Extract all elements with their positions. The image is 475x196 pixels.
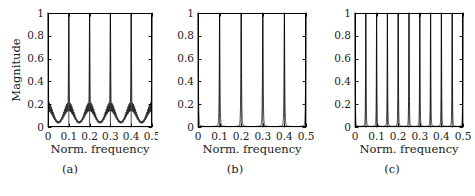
y-tick-label: 0 xyxy=(187,121,194,133)
x-tick-label: 0.2 xyxy=(390,130,407,142)
x-tick-label: 0.1 xyxy=(211,130,228,142)
plot-area-c: 00.10.20.30.40.500.20.40.60.81Norm. freq… xyxy=(317,0,475,160)
x-tick-label: 0.2 xyxy=(81,130,98,142)
y-tick-label: 0.2 xyxy=(177,98,194,110)
y-tick-label: 1 xyxy=(344,7,351,19)
y-tick-label: 0.4 xyxy=(27,75,44,87)
spectrum-curve xyxy=(48,13,152,127)
y-tick-label: 0.6 xyxy=(177,52,194,64)
y-axis-label: Magnitude xyxy=(9,38,23,101)
y-tick-label: 0 xyxy=(37,121,44,133)
panel-a: 00.10.20.30.40.500.20.40.60.81Norm. freq… xyxy=(0,0,158,196)
y-tick-label: 0.8 xyxy=(177,29,194,41)
plot-frame xyxy=(199,14,306,127)
subfigure-caption-b: (b) xyxy=(156,162,314,176)
x-tick-label: 0.4 xyxy=(276,130,293,142)
y-tick-label: 0.6 xyxy=(334,52,351,64)
x-tick-label: 0.5 xyxy=(455,130,472,142)
x-tick-label: 0.4 xyxy=(123,130,140,142)
x-tick-label: 0.1 xyxy=(60,130,77,142)
y-tick-label: 0 xyxy=(344,121,351,133)
panel-b: 00.10.20.30.40.500.20.40.60.81Norm. freq… xyxy=(158,0,316,196)
subfigure-caption-a: (a) xyxy=(0,162,149,176)
x-tick-label: 0.5 xyxy=(144,130,158,142)
y-tick-label: 1 xyxy=(37,7,44,19)
spectrum-plot-c: 00.10.20.30.40.500.20.40.60.81Norm. freq… xyxy=(317,0,475,160)
y-tick-label: 0.2 xyxy=(27,98,44,110)
x-tick-label: 0.3 xyxy=(411,130,428,142)
plot-frame xyxy=(49,14,152,127)
x-axis-label: Norm. frequency xyxy=(50,142,150,156)
y-tick-label: 0.8 xyxy=(27,29,44,41)
x-tick-label: 0.1 xyxy=(368,130,385,142)
figure-three-spectra: 00.10.20.30.40.500.20.40.60.81Norm. freq… xyxy=(0,0,475,196)
y-tick-label: 0.6 xyxy=(27,52,44,64)
subfigure-caption-c: (c) xyxy=(313,162,471,176)
spectrum-plot-b: 00.10.20.30.40.500.20.40.60.81Norm. freq… xyxy=(158,0,316,160)
x-axis-label: Norm. frequency xyxy=(202,142,302,156)
y-tick-label: 0.4 xyxy=(177,75,194,87)
spectrum-plot-a: 00.10.20.30.40.500.20.40.60.81Norm. freq… xyxy=(0,0,158,160)
x-tick-label: 0.3 xyxy=(102,130,119,142)
x-tick-label: 0.5 xyxy=(298,130,315,142)
plot-area-a: 00.10.20.30.40.500.20.40.60.81Norm. freq… xyxy=(0,0,158,160)
x-tick-label: 0 xyxy=(352,130,359,142)
y-tick-label: 0.2 xyxy=(334,98,351,110)
x-tick-label: 0.4 xyxy=(433,130,450,142)
x-tick-label: 0.2 xyxy=(233,130,250,142)
spectrum-curve xyxy=(355,13,463,127)
panel-c: 00.10.20.30.40.500.20.40.60.81Norm. freq… xyxy=(317,0,475,196)
y-tick-label: 0.8 xyxy=(334,29,351,41)
plot-area-b: 00.10.20.30.40.500.20.40.60.81Norm. freq… xyxy=(158,0,316,160)
x-axis-label: Norm. frequency xyxy=(359,142,459,156)
x-tick-label: 0.3 xyxy=(254,130,271,142)
spectrum-curve xyxy=(198,13,306,127)
x-tick-label: 0 xyxy=(195,130,202,142)
y-tick-label: 0.4 xyxy=(334,75,351,87)
y-tick-label: 1 xyxy=(187,7,194,19)
x-tick-label: 0 xyxy=(45,130,52,142)
